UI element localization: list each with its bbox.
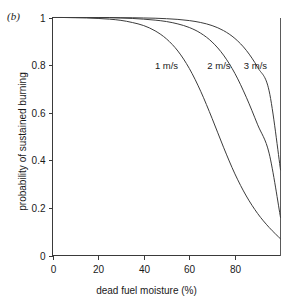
x-axis-tick-labels: 020406080 — [51, 264, 242, 275]
data-series-group — [53, 17, 281, 238]
x-tick-label: 80 — [230, 264, 242, 275]
x-tick-label: 60 — [184, 264, 196, 275]
data-curve — [53, 17, 281, 169]
y-tick-label: 0.4 — [32, 155, 46, 166]
y-tick-label: 1 — [40, 13, 46, 24]
series-annotation-label: 3 m/s — [244, 60, 267, 71]
figure-panel-b: (b) 00.20.40.60.81 020406080 1 m/s2 m/s3… — [0, 0, 293, 306]
y-tick-label: 0.2 — [32, 203, 46, 214]
x-axis-label: dead fuel moisture (%) — [0, 285, 293, 296]
x-tick-label: 40 — [139, 264, 151, 275]
y-tick-label: 0.8 — [32, 60, 46, 71]
y-tick-label: 0.6 — [32, 108, 46, 119]
y-axis-ticks — [49, 19, 53, 257]
x-axis-ticks — [54, 256, 236, 260]
y-axis-tick-labels: 00.20.40.60.81 — [32, 13, 46, 262]
series-annotation-label: 2 m/s — [207, 60, 230, 71]
series-annotations: 1 m/s2 m/s3 m/s — [155, 60, 267, 71]
y-axis-label: probability of sustained burning — [17, 22, 28, 262]
line-chart-plot: 00.20.40.60.81 020406080 1 m/s2 m/s3 m/s — [0, 0, 293, 306]
x-tick-label: 20 — [93, 264, 105, 275]
x-tick-label: 0 — [51, 264, 57, 275]
data-curve — [53, 17, 281, 217]
series-annotation-label: 1 m/s — [155, 60, 178, 71]
panel-label: (b) — [7, 10, 20, 22]
y-tick-label: 0 — [40, 251, 46, 262]
plot-frame — [53, 18, 281, 256]
